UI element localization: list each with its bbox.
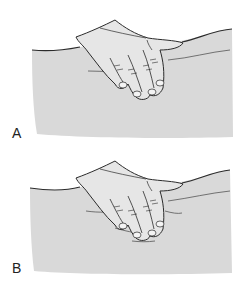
panel-b: B — [0, 141, 238, 282]
panel-label-b: B — [12, 260, 21, 276]
panel-label-a: A — [12, 125, 21, 141]
panel-a: A — [0, 0, 238, 141]
palpation-illustration-a — [0, 0, 238, 141]
palpation-illustration-b — [0, 141, 238, 283]
